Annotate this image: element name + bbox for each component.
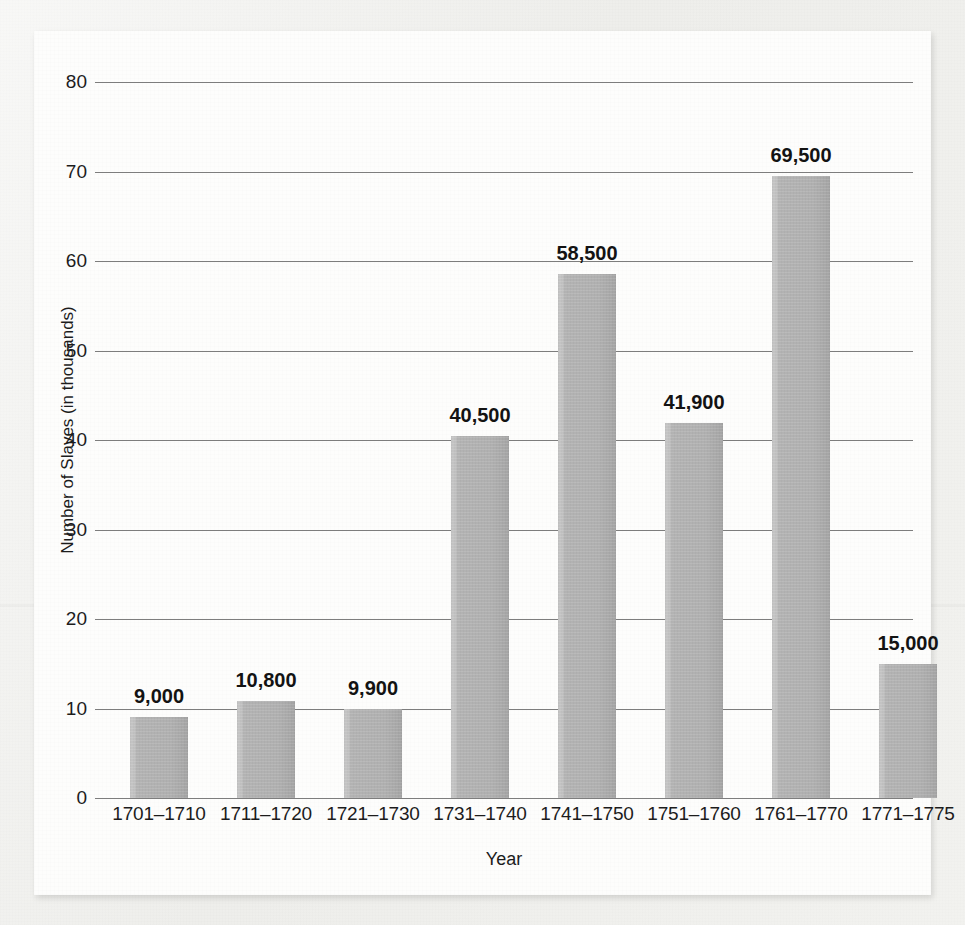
bar-value-label: 58,500 [556,242,617,265]
gridline [95,82,913,83]
y-axis-tick-label: 60 [47,250,87,272]
bar [665,423,723,798]
bar-value-label: 10,800 [235,669,296,692]
y-axis-tick-labels: 01020304050607080 [42,82,87,798]
plot-area: 9,00010,8009,90040,50058,50041,90069,500… [95,82,913,798]
x-axis-tick-label: 1761–1770 [754,803,847,825]
bar-value-label: 40,500 [449,404,510,427]
x-axis-tick-label: 1731–1740 [433,803,526,825]
y-axis-tick-label: 70 [47,161,87,183]
bar-value-label: 69,500 [770,144,831,167]
y-axis-tick-label: 50 [47,340,87,362]
bar-value-label: 15,000 [877,632,938,655]
gridline [95,798,913,799]
y-axis-tick-label: 10 [47,698,87,720]
x-axis-tick-label: 1751–1760 [647,803,740,825]
x-axis-tick-label: 1701–1710 [112,803,205,825]
x-axis-tick-label: 1721–1730 [326,803,419,825]
bar [879,664,937,798]
y-axis-tick-label: 80 [47,71,87,93]
y-axis-tick-label: 40 [47,429,87,451]
x-axis-tick-labels: 1701–17101711–17201721–17301731–17401741… [34,803,931,837]
bar [237,701,295,798]
y-axis-tick-label: 30 [47,519,87,541]
x-axis-title: Year [95,849,913,870]
x-axis-tick-label: 1711–1720 [220,803,312,825]
y-axis-tick-label: 20 [47,608,87,630]
bar [451,436,509,798]
bar [130,717,188,798]
bar [558,274,616,798]
bar-value-label: 9,900 [348,677,398,700]
bar [344,709,402,798]
x-axis-tick-label: 1771–1775 [861,803,954,825]
gridline [95,172,913,173]
x-axis-tick-label: 1741–1750 [540,803,633,825]
bar-value-label: 9,000 [134,685,184,708]
chart-panel: Number of Slaves (in thousands) 01020304… [34,31,931,895]
bar [772,176,830,798]
bar-value-label: 41,900 [663,391,724,414]
